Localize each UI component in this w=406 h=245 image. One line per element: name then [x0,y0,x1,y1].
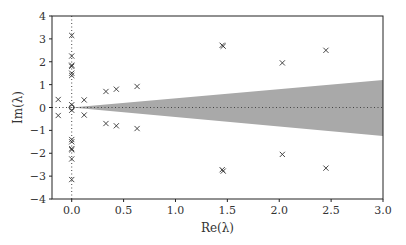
x-marker [82,112,87,117]
x-marker [69,63,74,68]
x-marker [280,60,285,65]
x-marker [323,166,328,171]
x-tick-label: 2.5 [322,204,340,217]
y-axis-ticks: −4−3−2−101234 [30,10,52,206]
y-tick-label: 3 [39,33,46,46]
y-tick-label: 1 [39,79,46,92]
x-marker [134,84,139,89]
x-marker [56,97,61,102]
x-marker [69,147,74,152]
x-marker [114,123,119,128]
y-tick-label: 4 [39,10,46,23]
eigenvalue-scatter-chart: 0.00.51.01.52.02.53.0 −4−3−2−101234 Re(λ… [0,0,406,245]
x-tick-label: 1.5 [219,204,237,217]
x-marker [69,146,74,151]
x-marker [69,108,74,113]
x-marker [69,53,74,58]
x-marker [56,113,61,118]
x-axis-label: Re(λ) [201,221,234,235]
x-marker [323,48,328,53]
x-tick-label: 0.0 [63,204,81,217]
y-axis-label: Im(λ) [11,91,25,124]
x-marker [280,152,285,157]
x-marker [69,102,74,107]
x-marker [134,126,139,131]
x-tick-label: 0.5 [115,204,133,217]
y-tick-label: 2 [39,56,46,69]
x-tick-label: 2.0 [270,204,288,217]
x-marker [69,156,74,161]
y-tick-label: −1 [30,124,46,137]
x-marker [82,97,87,102]
y-tick-label: −4 [30,193,46,206]
y-tick-label: 0 [39,102,46,115]
x-tick-label: 1.0 [167,204,185,217]
x-marker [69,64,74,69]
y-tick-label: −2 [30,147,46,160]
x-tick-label: 3.0 [374,204,392,217]
x-marker [114,87,119,92]
x-marker [103,121,108,126]
x-axis-ticks: 0.00.51.01.52.02.53.0 [63,199,392,217]
x-marker [103,89,108,94]
y-tick-label: −3 [30,170,46,183]
